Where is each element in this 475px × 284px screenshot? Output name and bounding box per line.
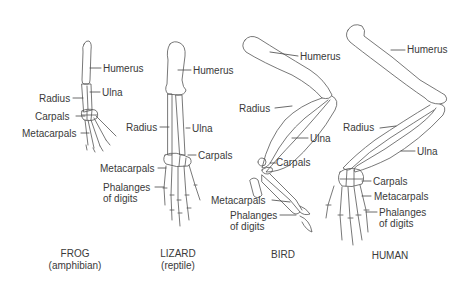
frog-ulna-label: Ulna: [102, 87, 123, 98]
human-carpals: [338, 168, 363, 186]
human-carpals-label: Carpals: [373, 176, 407, 187]
frog-humerus: [82, 41, 91, 84]
lizard-carpals-label: Carpals: [198, 150, 232, 161]
frog-title: FROG (amphibian): [30, 248, 120, 272]
human-digits: [326, 185, 369, 245]
frog-digits: [85, 116, 116, 152]
frog-carpals-label: Carpals: [35, 111, 69, 122]
lizard-name: LIZARD: [133, 248, 223, 260]
bird-phalanges-label: Phalanges: [230, 210, 277, 221]
lizard-humerus: [166, 42, 186, 95]
lizard-phalanges-label-line2: of digits: [103, 193, 137, 204]
lizard-ulna: [176, 95, 185, 155]
human-ulna-label: Ulna: [417, 146, 438, 157]
human-radius-label: Radius: [343, 122, 374, 133]
lizard-ulna-label: Ulna: [192, 123, 213, 134]
frog-name: FROG: [30, 248, 120, 260]
bird-title: BIRD: [238, 249, 328, 261]
lizard-digits: [163, 165, 200, 226]
lizard-title: LIZARD (reptile): [133, 248, 223, 272]
bird-metacarpals-label: Metacarpals: [211, 195, 265, 206]
human-metacarpals-label: Metacarpals: [374, 191, 428, 202]
human-title: HUMAN: [345, 250, 435, 262]
bird-carpals-label: Carpals: [276, 157, 310, 168]
bird-name: BIRD: [238, 249, 328, 261]
human-humerus: [346, 25, 446, 104]
bird-radius-label: Radius: [239, 103, 270, 114]
frog-metacarpals-label: Metacarpals: [22, 128, 76, 139]
human-name: HUMAN: [345, 250, 435, 262]
human-phalanges-label: Phalanges: [379, 207, 426, 218]
human-radius: [343, 105, 434, 170]
human-ulna: [354, 104, 445, 172]
lizard-radius-label: Radius: [126, 122, 157, 133]
bird-ulna-label: Ulna: [310, 133, 331, 144]
bird-humerus-label: Humerus: [300, 51, 341, 62]
lizard-phalanges-label: Phalanges: [103, 182, 150, 193]
bird-humerus: [243, 36, 332, 98]
forelimb-bones-artwork: [0, 0, 475, 284]
lizard-metacarpals-label: Metacarpals: [100, 163, 154, 174]
frog-subtitle: (amphibian): [30, 260, 120, 272]
frog-radius-label: Radius: [39, 93, 70, 104]
human-humerus-label: Humerus: [407, 44, 448, 55]
lizard-subtitle: (reptile): [133, 260, 223, 272]
lizard-humerus-label: Humerus: [193, 65, 234, 76]
lizard-radius: [168, 94, 172, 155]
frog-humerus-label: Humerus: [103, 63, 144, 74]
human-phalanges-label-line2: of digits: [379, 218, 413, 229]
bird-phalanges-label-line2: of digits: [230, 221, 264, 232]
